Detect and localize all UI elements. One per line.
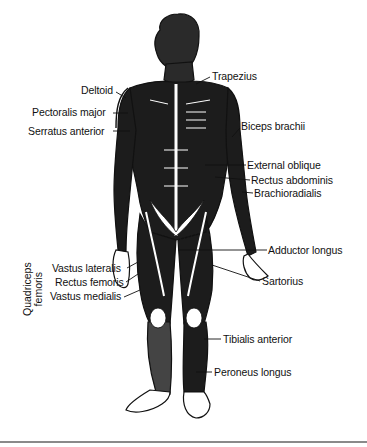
label-external-oblique: External oblique (247, 159, 321, 171)
bottom-divider (0, 441, 367, 443)
label-adductor-longus: Adductor longus (268, 244, 342, 256)
label-sartorius: Sartorius (262, 275, 303, 287)
label-vastus-lateralis: Vastus lateralis (52, 262, 121, 274)
label-biceps-brachii: Biceps brachii (241, 120, 305, 132)
label-tibialis-anterior: Tibialis anterior (223, 333, 292, 345)
group-label-quadriceps-femoris: Quadriceps femoris (22, 262, 44, 316)
right-shin (147, 322, 171, 394)
label-vastus-medialis: Vastus medialis (50, 290, 121, 302)
human-figure-illustration (0, 0, 367, 447)
neck (164, 62, 194, 83)
left-shin (183, 322, 208, 392)
label-pectoralis-major: Pectoralis major (32, 106, 106, 118)
label-brachioradialis: Brachioradialis (254, 187, 321, 199)
label-peroneus-longus: Peroneus longus (214, 366, 291, 378)
right-foot (126, 390, 170, 412)
group-label-line2: femoris (33, 262, 44, 316)
label-serratus-anterior: Serratus anterior (28, 125, 105, 137)
label-rectus-abdominis: Rectus abdominis (251, 174, 333, 186)
label-rectus-femoris: Rectus femoris (55, 276, 124, 288)
left-foot (184, 392, 211, 418)
left-arm (226, 88, 256, 256)
muscle-diagram: Trapezius Deltoid Pectoralis major Serra… (0, 0, 367, 447)
label-deltoid: Deltoid (81, 84, 113, 96)
label-trapezius: Trapezius (212, 70, 257, 82)
